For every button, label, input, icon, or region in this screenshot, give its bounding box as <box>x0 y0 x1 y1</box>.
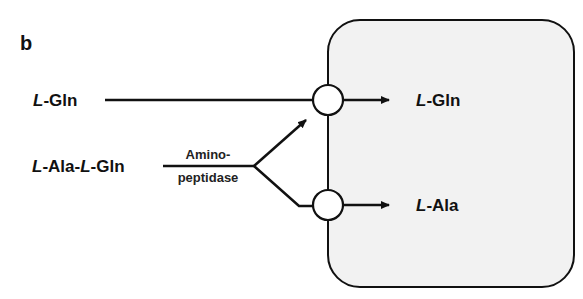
transport-diagram: b L-Gln L-Ala-L-Gln Amino- peptidase L-G… <box>0 0 583 299</box>
input-dipeptide-label: L-Ala-L-Gln <box>32 157 125 176</box>
output-gln-label: L-Gln <box>416 91 460 110</box>
cell-compartment <box>328 20 574 287</box>
branch-arrow-gln <box>254 120 306 166</box>
input-gln-label: L-Gln <box>33 91 77 110</box>
branch-line-ala <box>254 166 313 206</box>
enzyme-label-line1: Amino- <box>186 147 231 162</box>
diagram-canvas: b L-Gln L-Ala-L-Gln Amino- peptidase L-G… <box>0 0 583 299</box>
output-ala-label: L-Ala <box>416 196 459 215</box>
panel-label: b <box>20 32 32 54</box>
transporter-gln <box>313 85 343 115</box>
enzyme-label-line2: peptidase <box>178 170 239 185</box>
transporter-ala <box>313 190 343 220</box>
